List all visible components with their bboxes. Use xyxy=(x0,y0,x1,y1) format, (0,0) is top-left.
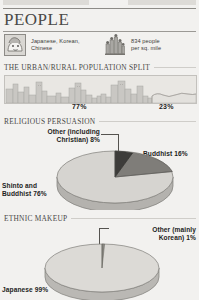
religion-other-callout: Other (including Christian) 8% xyxy=(14,128,100,144)
section-header-ethnic: ETHNIC MAKEUP xyxy=(4,214,196,223)
religion-other-leader-horizontal xyxy=(101,134,119,135)
urban-rural-band-chart xyxy=(4,75,197,104)
population-density-fact-text: 834 people per sq. mile xyxy=(131,38,161,53)
ethnic-groups-fact: Japanese, Korean, Chinese xyxy=(4,34,80,56)
section-label-urban-rural: THE URBAN/RURAL POPULATION SPLIT xyxy=(4,63,154,72)
ethnic-groups-fact-text: Japanese, Korean, Chinese xyxy=(31,38,80,53)
page-title: PEOPLE xyxy=(4,10,69,30)
section-header-urban-rural: THE URBAN/RURAL POPULATION SPLIT xyxy=(4,63,196,72)
section-rule xyxy=(99,121,196,122)
section-header-religion: RELIGIOUS PERSUASION xyxy=(4,117,196,126)
section-rule xyxy=(71,218,196,219)
crowd-buildings-icon xyxy=(104,34,126,56)
fact-row: Japanese, Korean, Chinese xyxy=(4,34,196,58)
ethnic-other-leader-horizontal xyxy=(99,228,109,229)
religion-other-label: Other (including Christian) 8% xyxy=(14,128,100,144)
ethnic-pie-chart xyxy=(42,238,162,300)
religion-pie-block: Other (including Christian) 8% Buddhist … xyxy=(0,126,199,214)
face-portrait-icon xyxy=(4,34,26,56)
rural-percent-label: 23% xyxy=(159,103,174,110)
ethnic-pie-block: Other (mainly Korean) 1% Japanese 99% xyxy=(0,224,199,299)
section-label-ethnic: ETHNIC MAKEUP xyxy=(4,214,71,223)
urban-percent-label: 77% xyxy=(72,103,87,110)
section-label-religion: RELIGIOUS PERSUASION xyxy=(4,117,99,126)
top-divider-rule xyxy=(3,8,196,9)
urban-rural-labels: 77% 23% xyxy=(4,103,195,114)
title-divider-rule xyxy=(3,31,196,32)
section-rule xyxy=(154,67,196,68)
religion-pie-chart xyxy=(55,144,175,210)
population-density-fact: 834 people per sq. mile xyxy=(104,34,161,56)
